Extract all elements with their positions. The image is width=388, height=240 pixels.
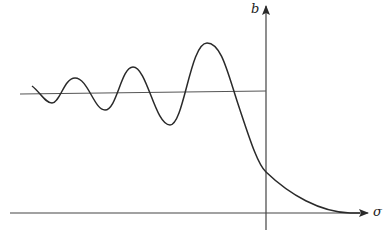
- reference-line: [20, 91, 266, 94]
- b-axis-label: b: [251, 2, 259, 15]
- sigma-axis-label: σ: [373, 205, 382, 218]
- diagram-canvas: b σ: [0, 0, 388, 240]
- diagram-svg: [0, 0, 388, 240]
- function-curve: [32, 43, 360, 213]
